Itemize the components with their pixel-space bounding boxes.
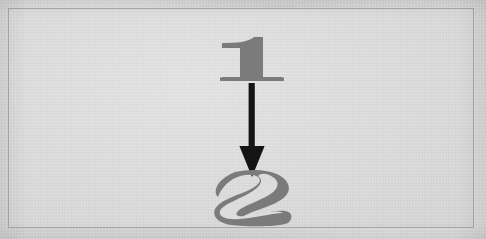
numeral-one-glyph <box>216 35 288 85</box>
figure-frame: 1 <box>8 8 474 228</box>
node-two: 2 <box>209 169 295 227</box>
diagram-stage: 1 <box>9 9 473 227</box>
numeral-two-glyph <box>209 169 295 227</box>
figure-canvas: 1 <box>0 0 486 239</box>
node-one: 1 <box>216 35 288 85</box>
down-arrow-shape <box>232 83 272 177</box>
down-arrow-icon <box>232 83 272 177</box>
